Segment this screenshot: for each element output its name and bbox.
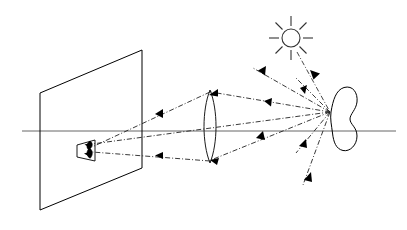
arrowhead-object-to-lens-bottom-icon [256, 131, 265, 140]
scatter-arrowhead-lower-icon [299, 139, 307, 148]
arrowhead-object-to-lens-top-icon [264, 98, 272, 107]
scatter-arrowhead-lower-far-icon [304, 172, 312, 182]
screen-surface [40, 50, 142, 210]
lens-body [204, 90, 216, 163]
scatter-ray-lower-far [303, 112, 330, 185]
scatter-arrowhead-upper-icon [300, 85, 307, 94]
sun-incident-ray-line [297, 52, 330, 112]
lens [204, 90, 216, 163]
image-plate [77, 140, 95, 161]
sun [269, 16, 313, 60]
scatter-ray-lower [296, 112, 330, 153]
imaging-rays [92, 89, 330, 165]
ray-lens-bottom-to-image [92, 152, 210, 161]
scatter-arrowhead-upper-left-icon [258, 66, 266, 76]
sun-rays-icon [269, 16, 313, 60]
ray-lens-top-to-image [92, 89, 218, 147]
screen [40, 50, 142, 210]
image-on-screen [77, 140, 95, 161]
scatter-ray-upper-left [253, 66, 330, 112]
object [331, 87, 357, 151]
sun-incident-ray [297, 52, 330, 112]
ray-chief-through-centre [92, 112, 330, 144]
object-blob-shape [331, 87, 357, 151]
scattered-rays [253, 66, 330, 185]
sun-disc-icon [282, 29, 300, 47]
arrowhead-lens-bottom-to-image-icon [155, 152, 163, 159]
optics-diagram-canvas: Lens imaging ray diagram [0, 0, 407, 230]
arrowhead-lens-top-to-image-icon [155, 109, 163, 118]
optics-diagram-root: Lens imaging ray diagram [0, 0, 407, 230]
sun-incident-arrowhead-icon [310, 70, 320, 80]
